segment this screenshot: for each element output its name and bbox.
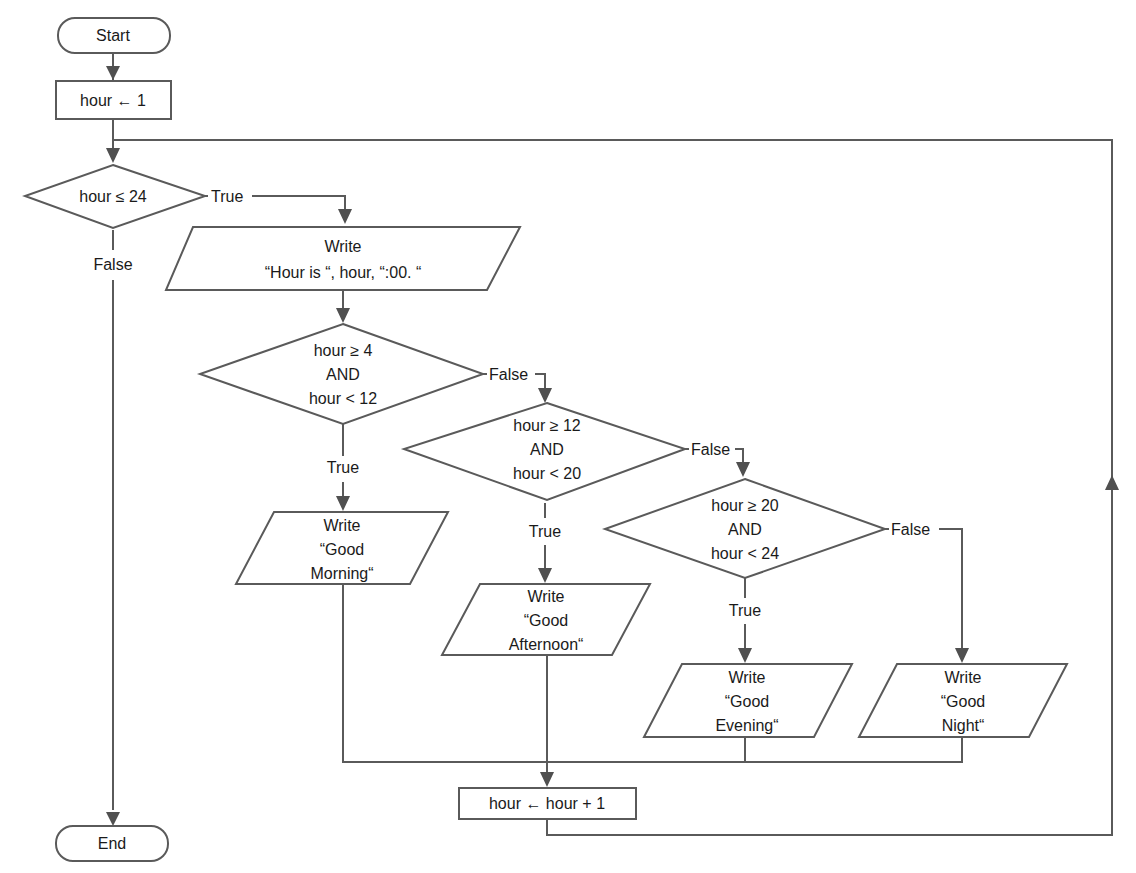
write-evening-line-1: Write <box>728 669 765 686</box>
evening-condition-node[interactable]: hour ≥ 20 AND hour < 24 <box>605 479 885 578</box>
write-afternoon-line-1: Write <box>527 588 564 605</box>
write-afternoon-node[interactable]: Write “Good Afternoon“ <box>442 584 650 655</box>
arrow-down-icon <box>955 648 969 663</box>
write-morning-node[interactable]: Write “Good Morning“ <box>236 512 448 584</box>
arrow-up-icon <box>1105 475 1119 490</box>
loop-condition-node[interactable]: hour ≤ 24 <box>25 165 205 228</box>
write-afternoon-line-3: Afternoon“ <box>509 636 584 653</box>
write-morning-line-1: Write <box>323 517 360 534</box>
evening-condition-line-3: hour < 24 <box>711 545 779 562</box>
write-hour-node[interactable]: Write “Hour is “, hour, “:00. “ <box>166 227 520 290</box>
start-node[interactable]: Start <box>58 18 170 53</box>
arrow-down-icon <box>736 462 750 477</box>
arrow-down-icon <box>106 66 120 80</box>
arrow-down-icon <box>106 812 120 826</box>
write-evening-line-3: Evening“ <box>715 717 778 734</box>
init-process-node[interactable]: hour ← 1 <box>56 81 171 119</box>
loop-true-label: True <box>211 188 243 205</box>
evening-false-label: False <box>891 521 930 538</box>
write-hour-line-2: “Hour is “, hour, “:00. “ <box>265 264 422 281</box>
init-label: hour ← 1 <box>80 92 146 109</box>
morning-condition-node[interactable]: hour ≥ 4 AND hour < 12 <box>200 324 483 424</box>
arrow-down-icon <box>336 496 350 511</box>
end-node[interactable]: End <box>56 826 168 861</box>
arrow-down-icon <box>336 308 350 323</box>
write-morning-line-3: Morning“ <box>310 565 373 582</box>
afternoon-condition-line-3: hour < 20 <box>513 465 581 482</box>
afternoon-false-label: False <box>691 441 730 458</box>
evening-condition-line-2: AND <box>728 521 762 538</box>
write-afternoon-line-2: “Good <box>524 612 568 629</box>
write-night-node[interactable]: Write “Good Night“ <box>859 664 1067 737</box>
arrow-down-icon <box>338 209 352 224</box>
loop-false-label: False <box>93 256 132 273</box>
afternoon-condition-line-1: hour ≥ 12 <box>513 417 581 434</box>
morning-condition-line-3: hour < 12 <box>309 390 377 407</box>
morning-condition-line-1: hour ≥ 4 <box>314 342 373 359</box>
arrow-down-icon <box>738 648 752 663</box>
write-evening-node[interactable]: Write “Good Evening“ <box>644 664 852 737</box>
evening-condition-line-1: hour ≥ 20 <box>711 497 779 514</box>
arrow-down-icon <box>106 148 120 163</box>
loop-condition-label: hour ≤ 24 <box>79 188 147 205</box>
afternoon-true-label: True <box>529 523 561 540</box>
edge-evening-false <box>885 529 962 648</box>
write-evening-line-2: “Good <box>725 693 769 710</box>
start-label: Start <box>96 27 130 44</box>
evening-true-label: True <box>729 602 761 619</box>
write-night-line-1: Write <box>944 669 981 686</box>
increment-process-node[interactable]: hour ← hour + 1 <box>459 788 636 819</box>
write-night-line-3: Night“ <box>942 717 985 734</box>
end-label: End <box>98 835 126 852</box>
morning-true-label: True <box>327 459 359 476</box>
write-morning-line-2: “Good <box>320 541 364 558</box>
increment-label: hour ← hour + 1 <box>489 795 605 812</box>
arrow-down-icon <box>538 568 552 583</box>
write-night-line-2: “Good <box>941 693 985 710</box>
afternoon-condition-line-2: AND <box>530 441 564 458</box>
arrow-down-icon <box>540 772 554 787</box>
flowchart-canvas: Start hour ← 1 hour ≤ 24 Write “Hour is … <box>0 0 1136 873</box>
write-hour-line-1: Write <box>324 238 361 255</box>
morning-condition-line-2: AND <box>326 366 360 383</box>
arrow-down-icon <box>538 388 552 403</box>
afternoon-condition-node[interactable]: hour ≥ 12 AND hour < 20 <box>404 403 685 500</box>
morning-false-label: False <box>489 366 528 383</box>
